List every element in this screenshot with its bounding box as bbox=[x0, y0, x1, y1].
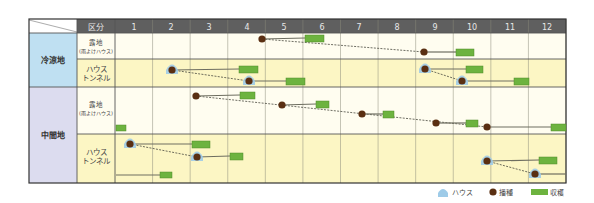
legend-house-icon bbox=[438, 189, 448, 197]
harvest-box bbox=[551, 124, 566, 131]
legend-house-label: ハウス bbox=[452, 189, 473, 197]
category-cool-open-line1: 露地 bbox=[89, 38, 103, 47]
region-label-mid: 中間地 bbox=[41, 130, 65, 140]
category-mid-house-line1: ハウス bbox=[86, 148, 107, 157]
harvest-box bbox=[286, 78, 305, 85]
month-header-6: 6 bbox=[319, 23, 324, 32]
sow-dot-icon bbox=[245, 77, 252, 84]
month-header-9: 9 bbox=[432, 23, 437, 32]
sow-dot-icon bbox=[483, 123, 490, 130]
category-mid-open-line2: (雨よけハウス) bbox=[79, 110, 113, 117]
harvest-box bbox=[305, 35, 324, 42]
month-header-3: 3 bbox=[206, 23, 211, 32]
sow-dot-icon bbox=[432, 119, 439, 126]
sow-dot-icon bbox=[458, 77, 465, 84]
legend-harvest-label: 収穫 bbox=[550, 188, 564, 197]
month-header-11: 11 bbox=[505, 23, 515, 32]
month-header-1: 1 bbox=[131, 23, 136, 32]
region-label-cool: 冷涼地 bbox=[41, 55, 65, 65]
sow-dot-icon bbox=[358, 110, 365, 117]
harvest-box bbox=[239, 66, 258, 73]
month-header-5: 5 bbox=[281, 23, 286, 32]
sow-dot-icon bbox=[168, 66, 175, 73]
harvest-box bbox=[383, 111, 394, 118]
sow-dot-icon bbox=[193, 153, 200, 160]
legend-sow-dot-icon bbox=[489, 188, 496, 195]
harvest-box bbox=[316, 101, 329, 108]
harvest-box bbox=[466, 66, 483, 73]
harvest-box bbox=[116, 125, 126, 131]
harvest-box bbox=[466, 120, 478, 127]
month-header-7: 7 bbox=[356, 23, 361, 32]
sow-dot-icon bbox=[126, 140, 133, 147]
cultivation-calendar: 区分 1 2 3 4 5 6 7 8 9 10 11 12 冷涼地 中間地 露地… bbox=[0, 0, 594, 203]
month-header-2: 2 bbox=[168, 23, 173, 32]
month-header-4: 4 bbox=[244, 23, 249, 32]
category-cool-house-line1: ハウス bbox=[86, 65, 107, 74]
sow-dot-icon bbox=[258, 35, 265, 42]
month-header-8: 8 bbox=[394, 23, 399, 32]
sow-dot-icon bbox=[421, 65, 428, 72]
sow-dot-icon bbox=[192, 92, 199, 99]
harvest-box bbox=[230, 153, 243, 160]
harvest-box bbox=[160, 172, 172, 178]
category-mid-open-line1: 露地 bbox=[89, 100, 103, 109]
legend-harvest-box-icon bbox=[531, 189, 548, 195]
harvest-box bbox=[240, 92, 255, 99]
category-header: 区分 bbox=[88, 23, 104, 32]
harvest-box bbox=[192, 141, 210, 148]
row-background bbox=[77, 59, 566, 87]
row-background bbox=[77, 134, 566, 183]
sow-dot-icon bbox=[531, 170, 538, 177]
harvest-box bbox=[539, 157, 557, 164]
sow-dot-icon bbox=[420, 48, 427, 55]
harvest-box bbox=[514, 78, 529, 85]
sow-dot-icon bbox=[483, 157, 490, 164]
category-cool-open-line2: (雨よけハウス) bbox=[79, 48, 113, 55]
legend-sow-label: 播種 bbox=[499, 188, 513, 197]
month-header-10: 10 bbox=[467, 23, 477, 32]
category-cool-house-line2: トンネル bbox=[82, 74, 111, 83]
harvest-box bbox=[456, 49, 474, 56]
category-mid-house-line2: トンネル bbox=[82, 157, 111, 166]
month-header-12: 12 bbox=[542, 23, 552, 32]
sow-dot-icon bbox=[278, 101, 285, 108]
